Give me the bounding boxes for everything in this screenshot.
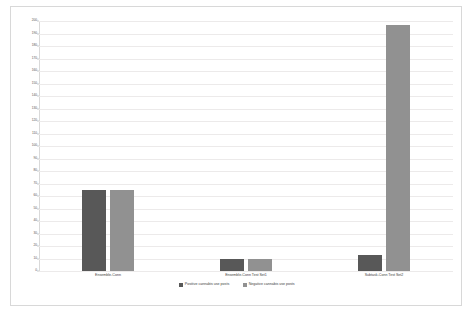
y-axis-tick-label: 180 [32, 44, 37, 47]
legend-swatch [179, 283, 183, 287]
y-axis-tick-mark [37, 58, 39, 59]
y-axis-tick-mark [37, 46, 39, 47]
y-axis-tick-label: 50 [33, 207, 37, 210]
legend-label: Negative cannabis use posts [249, 283, 295, 287]
y-axis-tick-label: 190 [32, 32, 37, 35]
y-axis-tick-label: 140 [32, 94, 37, 97]
y-axis-tick-mark [37, 121, 39, 122]
gridline [39, 271, 453, 272]
y-axis-tick-label: 0 [35, 269, 37, 272]
plot-area: 0102030405060708090100110120130140150160… [39, 21, 453, 272]
y-axis-tick-label: 130 [32, 107, 37, 110]
y-axis-tick-mark [37, 271, 39, 272]
y-axis-tick-label: 160 [32, 69, 37, 72]
bar [110, 190, 134, 271]
y-axis-tick-label: 200 [32, 19, 37, 22]
y-axis-tick-mark [37, 83, 39, 84]
chart-legend: Positive cannabis use postsNegative cann… [11, 283, 463, 287]
y-axis-tick-mark [37, 33, 39, 34]
y-axis-tick-mark [37, 133, 39, 134]
y-axis-tick-mark [37, 108, 39, 109]
y-axis-tick-mark [37, 21, 39, 22]
bar [248, 259, 272, 272]
y-axis-tick-label: 150 [32, 82, 37, 85]
x-axis-category-label: Ensemble-Conn Test Set1 [225, 274, 267, 278]
y-axis-tick-mark [37, 71, 39, 72]
y-axis-title: Households [0, 0, 5, 51]
bar [82, 190, 106, 271]
bar [386, 25, 410, 271]
y-axis-tick-label: 110 [32, 132, 37, 135]
y-axis-tick-label: 170 [32, 57, 37, 60]
legend-entry[interactable]: Negative cannabis use posts [243, 283, 294, 287]
y-axis-tick-label: 80 [33, 169, 37, 172]
bar [358, 255, 382, 271]
y-axis-tick-label: 60 [33, 194, 37, 197]
legend-entry[interactable]: Positive cannabis use posts [179, 283, 229, 287]
y-axis-tick-label: 30 [33, 232, 37, 235]
legend-label: Positive cannabis use posts [185, 283, 229, 287]
y-axis-tick-label: 40 [33, 219, 37, 222]
legend-swatch [243, 283, 247, 287]
y-axis-tick-label: 20 [33, 244, 37, 247]
chart-figure: Households 01020304050607080901001101201… [10, 6, 462, 306]
y-axis-tick-mark [37, 96, 39, 97]
x-axis-category-label: Ensemble-Conn [95, 274, 121, 278]
y-axis-tick-label: 10 [33, 257, 37, 260]
y-axis-tick-label: 100 [32, 144, 37, 147]
bar [220, 259, 244, 272]
y-axis-tick-mark [37, 146, 39, 147]
x-axis-category-label: Subtask-Conn Test Set2 [365, 274, 404, 278]
y-axis-tick-label: 120 [32, 119, 37, 122]
gridline [39, 21, 453, 22]
y-axis-tick-label: 70 [33, 182, 37, 185]
y-axis-tick-label: 90 [33, 157, 37, 160]
